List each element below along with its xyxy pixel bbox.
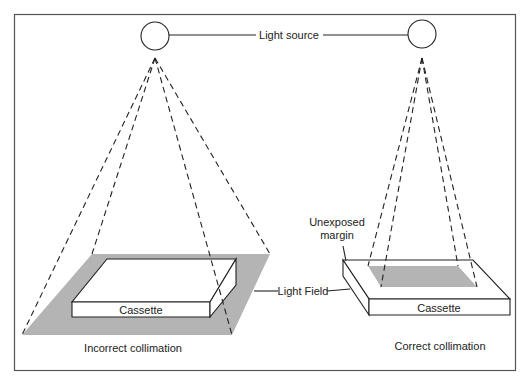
cassette-label-right: Cassette: [417, 302, 460, 314]
light-source-label: Light source: [259, 29, 319, 41]
caption-incorrect: Incorrect collimation: [84, 342, 182, 354]
unexposed-margin-label-line1: Unexposed: [309, 216, 365, 228]
light-source-icon-left: [141, 22, 169, 50]
light-field-label: Light Field: [278, 285, 329, 297]
light-source-icon-right: [408, 20, 436, 48]
caption-correct: Correct collimation: [394, 340, 485, 352]
collimation-diagram: Cassette Incorrect collimation Cassette: [0, 0, 528, 382]
unexposed-margin-label-line2: margin: [320, 229, 354, 241]
cassette-label-left: Cassette: [119, 304, 162, 316]
